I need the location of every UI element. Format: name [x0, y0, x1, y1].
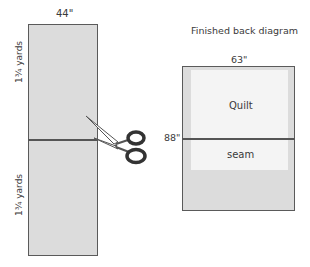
fabric-width-label: 44" — [56, 8, 73, 19]
backing-width-label: 63" — [231, 54, 247, 65]
scissors-icon — [84, 114, 150, 168]
backing-seam-line — [182, 138, 295, 140]
backing-height-label: 88" — [164, 132, 180, 143]
top-panel-length-label: 1¾ yards — [14, 37, 24, 87]
quilt-label: Quilt — [229, 100, 253, 111]
bottom-panel-length-label: 1¾ yards — [14, 170, 24, 220]
seam-label: seam — [227, 149, 254, 160]
diagram-title: Finished back diagram — [191, 25, 298, 36]
